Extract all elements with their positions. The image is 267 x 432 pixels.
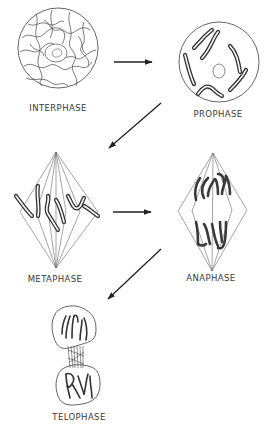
interphase-label: INTERPHASE: [29, 103, 86, 113]
telophase-cell: TELOPHASE: [51, 306, 105, 422]
prophase-label: PROPHASE: [193, 109, 242, 119]
interphase-cell: INTERPHASE: [18, 8, 98, 113]
telophase-chromosomes-bottom: [66, 374, 92, 398]
mitosis-diagram: INTERPHASE PROPHASE: [0, 0, 267, 432]
prophase-chromosomes: [185, 30, 246, 96]
arrow-prophase-to-metaphase: [109, 103, 161, 148]
prophase-nucleolus: [213, 64, 225, 78]
anaphase-label: ANAPHASE: [186, 273, 235, 283]
metaphase-cell: METAPHASE: [16, 152, 98, 284]
prophase-cell: PROPHASE: [179, 22, 259, 119]
telophase-chromosomes-top: [62, 315, 87, 340]
anaphase-cell: ANAPHASE: [178, 153, 247, 283]
arrow-anaphase-to-telophase: [108, 249, 161, 299]
anaphase-chromosomes-lower: [196, 222, 226, 248]
telophase-daughter-cell-bottom: [56, 365, 100, 405]
telophase-daughter-cell-top: [52, 306, 96, 349]
metaphase-label: METAPHASE: [28, 274, 83, 284]
anaphase-spindle: [178, 153, 247, 271]
metaphase-chromosomes: [16, 186, 98, 230]
nucleolus: [45, 44, 67, 62]
telophase-label: TELOPHASE: [51, 412, 105, 422]
